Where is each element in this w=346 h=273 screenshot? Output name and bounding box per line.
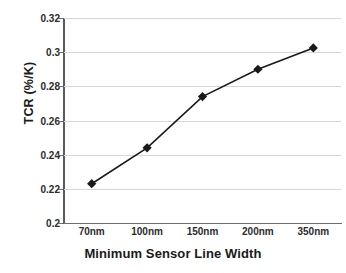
y-axis-tick-label: 0.24 bbox=[26, 149, 60, 160]
y-axis-tick-label: 0.28 bbox=[26, 81, 60, 92]
plot-area bbox=[64, 18, 341, 223]
data-point-marker bbox=[253, 65, 262, 74]
x-axis-tick-label: 100nm bbox=[117, 226, 177, 237]
y-axis-tick-label: 0.26 bbox=[26, 115, 60, 126]
x-axis-title: Minimum Sensor Line Width bbox=[0, 246, 346, 261]
series-line bbox=[92, 48, 314, 184]
x-axis-tick-label: 150nm bbox=[173, 226, 233, 237]
x-axis-tick-label: 200nm bbox=[228, 226, 288, 237]
chart-container: TCR (%/K) 0.20.220.240.260.280.30.32 70n… bbox=[0, 0, 346, 273]
data-point-marker bbox=[309, 43, 318, 52]
data-series-tcr bbox=[64, 18, 341, 223]
data-point-marker bbox=[87, 179, 96, 188]
y-axis-tick-label: 0.22 bbox=[26, 183, 60, 194]
x-axis-tick-labels: 70nm100nm150nm200nm350nm bbox=[64, 226, 341, 244]
x-axis-tick-label: 70nm bbox=[62, 226, 122, 237]
y-axis-tick-label: 0.32 bbox=[26, 13, 60, 24]
x-axis-tick-label: 350nm bbox=[283, 226, 343, 237]
y-axis-tick-label: 0.2 bbox=[26, 218, 60, 229]
y-axis-tick-labels: 0.20.220.240.260.280.30.32 bbox=[22, 0, 60, 273]
gridline bbox=[64, 223, 341, 224]
y-axis-tick-label: 0.3 bbox=[26, 47, 60, 58]
